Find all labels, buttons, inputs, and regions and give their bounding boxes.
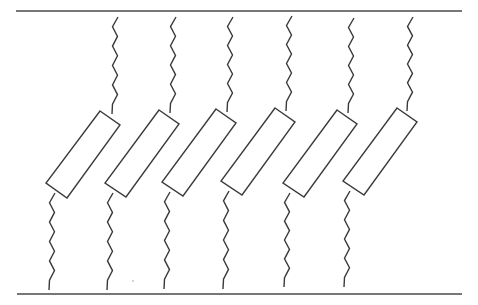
bottom-spring [344,191,350,287]
top-spring [112,17,118,114]
stray-dot [132,280,134,282]
spring-element-6 [343,17,417,287]
spring-element-1 [46,17,120,290]
rigid-block [343,108,417,195]
top-spring [170,17,176,113]
element-group [46,16,417,290]
spring-element-3 [162,17,236,289]
bottom-spring [284,193,290,287]
top-spring [407,17,413,111]
diagram-svg [0,0,478,305]
bottom-spring [223,191,229,289]
bottom-spring [49,193,55,290]
bottom-spring [164,192,170,289]
top-spring [227,17,233,112]
bottom-spring [107,193,113,290]
spring-element-5 [283,18,357,287]
spring-mass-diagram [0,0,478,305]
top-spring [348,18,354,113]
top-spring [286,16,292,111]
